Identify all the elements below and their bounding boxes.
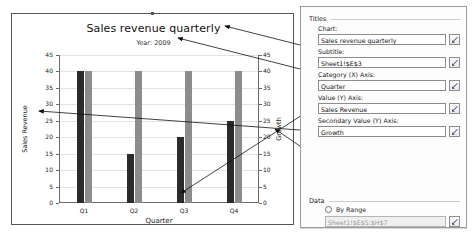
chart-properties-panel: Titles Chart:Sales revenue quarterlySubt… bbox=[300, 6, 467, 228]
field-row-4[interactable]: Growth bbox=[318, 126, 460, 137]
bar-Q1-sales-revenue bbox=[77, 71, 84, 203]
range-picker-icon-1[interactable] bbox=[449, 57, 460, 68]
y-tick-label-right: 5 bbox=[263, 183, 283, 190]
titles-group-rule bbox=[309, 19, 460, 20]
y-tick-right bbox=[259, 170, 262, 171]
range-picker-icon-0[interactable] bbox=[449, 34, 460, 45]
y-tick-right bbox=[259, 55, 262, 56]
y-tick-right bbox=[259, 154, 262, 155]
field-label-1: Subtitle: bbox=[318, 48, 460, 56]
gridline bbox=[59, 55, 259, 56]
y-tick-right bbox=[259, 121, 262, 122]
field-row-2[interactable]: Quarter bbox=[318, 80, 460, 91]
bar-Q4-sales-revenue bbox=[227, 121, 234, 203]
y-tick-label-left: 30 bbox=[33, 100, 53, 107]
x-tick-label-Q3: Q3 bbox=[164, 207, 204, 214]
field-label-4: Secondary Value (Y) Axis: bbox=[318, 117, 460, 125]
data-group-label: Data bbox=[309, 197, 328, 205]
y-tick-label-right: 0 bbox=[263, 199, 283, 206]
plot-inner: 051015202530354045051015202530354045Q1Q2… bbox=[59, 55, 259, 203]
y-tick-right bbox=[259, 104, 262, 105]
range-picker-icon-4[interactable] bbox=[449, 126, 460, 137]
range-picker-icon-2[interactable] bbox=[449, 80, 460, 91]
field-input-4[interactable]: Growth bbox=[318, 126, 446, 137]
chart-title: Sales revenue quarterly bbox=[12, 22, 295, 35]
axis-right bbox=[258, 55, 259, 203]
y-tick-label-left: 20 bbox=[33, 133, 53, 140]
y-tick-label-right: 15 bbox=[263, 150, 283, 157]
x-axis-title: Quarter bbox=[59, 217, 259, 225]
y-tick-label-left: 15 bbox=[33, 150, 53, 157]
y-tick-label-right: 25 bbox=[263, 117, 283, 124]
bottom-strip bbox=[0, 229, 473, 235]
field-input-0[interactable]: Sales revenue quarterly bbox=[318, 34, 446, 45]
by-range-label: By Range bbox=[336, 206, 366, 213]
y-tick-label-left: 0 bbox=[33, 199, 53, 206]
y-tick-label-right: 10 bbox=[263, 166, 283, 173]
y-tick-right bbox=[259, 71, 262, 72]
field-row-3[interactable]: Sales Revenue bbox=[318, 103, 460, 114]
plot-area: 051015202530354045051015202530354045Q1Q2… bbox=[59, 55, 259, 203]
field-row-0[interactable]: Sales revenue quarterly bbox=[318, 34, 460, 45]
y-tick-left bbox=[56, 203, 59, 204]
data-group-rule bbox=[309, 201, 460, 202]
field-input-1[interactable]: Sheet1!$E$3 bbox=[318, 57, 446, 68]
range-picker-icon-3[interactable] bbox=[449, 103, 460, 114]
data-group: Data By Range Sheet1!$E$5:$H$7 bbox=[309, 197, 460, 228]
titles-group-label: Titles bbox=[309, 15, 329, 23]
bar-Q3-sales-revenue bbox=[177, 137, 184, 203]
y-tick-label-left: 45 bbox=[33, 51, 53, 58]
y-axis-title-left: Sales Revenue bbox=[20, 55, 30, 203]
y-tick-label-right: 30 bbox=[263, 100, 283, 107]
bar-Q3-growth bbox=[185, 71, 192, 203]
range-picker-icon-by-range[interactable] bbox=[449, 216, 460, 227]
y-tick-label-left: 10 bbox=[33, 166, 53, 173]
y-tick-right bbox=[259, 203, 262, 204]
chart-subtitle: Year: 2009 bbox=[12, 39, 295, 47]
y-tick-right bbox=[259, 137, 262, 138]
chart-object[interactable]: Sales revenue quarterly Year: 2009 Sales… bbox=[11, 13, 294, 225]
field-row-1[interactable]: Sheet1!$E$3 bbox=[318, 57, 460, 68]
bar-Q2-sales-revenue bbox=[127, 154, 134, 203]
field-label-2: Category (X) Axis: bbox=[318, 71, 460, 79]
titles-fields: Chart:Sales revenue quarterlySubtitle:Sh… bbox=[309, 25, 460, 137]
y-tick-label-right: 35 bbox=[263, 84, 283, 91]
y-tick-right bbox=[259, 88, 262, 89]
selection-handle-top[interactable] bbox=[151, 12, 154, 15]
by-range-radio-row[interactable]: By Range bbox=[325, 206, 460, 213]
y-tick-label-left: 25 bbox=[33, 117, 53, 124]
y-tick-label-right: 45 bbox=[263, 51, 283, 58]
field-label-3: Value (Y) Axis: bbox=[318, 94, 460, 102]
bar-Q1-growth bbox=[85, 71, 92, 203]
y-tick-label-right: 40 bbox=[263, 67, 283, 74]
x-tick-label-Q1: Q1 bbox=[64, 207, 104, 214]
y-tick-right bbox=[259, 187, 262, 188]
bar-Q2-growth bbox=[135, 71, 142, 203]
field-input-2[interactable]: Quarter bbox=[318, 80, 446, 91]
bar-Q4-growth bbox=[235, 71, 242, 203]
y-tick-label-left: 5 bbox=[33, 183, 53, 190]
radio-icon-by-range[interactable] bbox=[325, 206, 332, 213]
titles-group: Titles Chart:Sales revenue quarterlySubt… bbox=[309, 15, 460, 140]
field-label-0: Chart: bbox=[318, 25, 460, 33]
x-tick-label-Q2: Q2 bbox=[114, 207, 154, 214]
screenshot-root: Sales revenue quarterly Year: 2009 Sales… bbox=[0, 0, 473, 235]
axis-left bbox=[59, 55, 60, 203]
y-axis-title-left-text: Sales Revenue bbox=[21, 105, 29, 153]
field-input-3[interactable]: Sales Revenue bbox=[318, 103, 446, 114]
y-tick-label-left: 35 bbox=[33, 84, 53, 91]
y-tick-label-right: 20 bbox=[263, 133, 283, 140]
by-range-field-row[interactable]: Sheet1!$E$5:$H$7 bbox=[325, 216, 460, 227]
by-range-input[interactable]: Sheet1!$E$5:$H$7 bbox=[325, 216, 446, 227]
x-tick-label-Q4: Q4 bbox=[214, 207, 254, 214]
y-tick-label-left: 40 bbox=[33, 67, 53, 74]
